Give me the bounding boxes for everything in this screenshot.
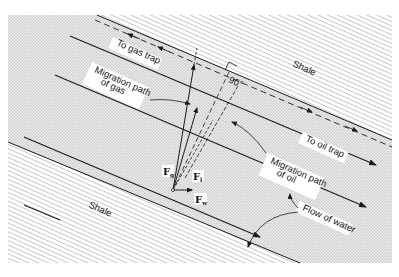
vector-origin [172,189,175,192]
petroleum-migration-diagram: 90° Fg Fl Fw Shale Shale To gas trap Mig… [0,0,399,277]
